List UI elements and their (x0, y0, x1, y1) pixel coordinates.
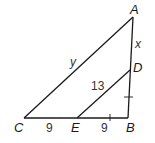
label-y: y (69, 55, 77, 69)
vertex-label-b: B (126, 120, 135, 135)
vertex-label-c: C (14, 120, 24, 135)
triangle-diagram: A D C E B x y 13 9 9 (0, 0, 155, 143)
segment-ac (24, 17, 133, 118)
vertex-label-a: A (129, 2, 139, 17)
vertex-label-d: D (133, 60, 142, 75)
label-ce-9: 9 (46, 121, 53, 135)
segment-de (77, 70, 130, 118)
label-x: x (134, 37, 142, 51)
label-de-13: 13 (91, 79, 105, 93)
label-eb-9: 9 (101, 121, 108, 135)
vertex-label-e: E (71, 120, 80, 135)
